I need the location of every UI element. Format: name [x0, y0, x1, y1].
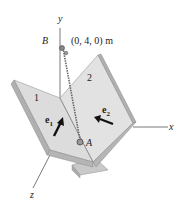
point-a-ring: [77, 139, 83, 145]
z-axis-line: [33, 155, 50, 188]
point-b-label: B: [42, 36, 48, 46]
x-axis-label: x: [169, 122, 173, 132]
anchor-b: [60, 46, 65, 51]
diagram-canvas: y x z B (0, 4, 0) m A 1 2 e1 e2: [0, 0, 181, 203]
panel-2-label: 2: [87, 73, 92, 83]
point-b-coordinates: (0, 4, 0) m: [71, 36, 113, 46]
e1-label: e1: [45, 115, 53, 128]
panel-1-label: 1: [34, 93, 39, 103]
e2-label: e2: [102, 105, 110, 118]
point-a-label: A: [86, 138, 92, 148]
diagram-figure: [0, 0, 181, 203]
z-axis-label: z: [30, 190, 34, 200]
y-axis-label: y: [58, 14, 62, 24]
